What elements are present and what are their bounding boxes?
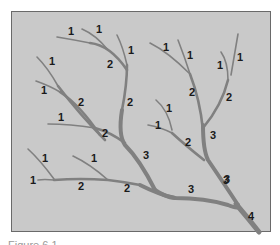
order-label: 4 <box>248 210 255 222</box>
order-label: 1 <box>166 102 172 114</box>
order-label: 1 <box>68 25 74 37</box>
order-label: 1 <box>49 55 55 67</box>
order-label: 2 <box>78 96 84 108</box>
order-label: 2 <box>185 136 191 148</box>
order-label: 1 <box>42 152 48 164</box>
figure-caption: Figure 6.1 <box>8 236 58 245</box>
order-label: 2 <box>127 96 133 108</box>
order-label: 2 <box>189 86 195 98</box>
order-label: 1 <box>237 51 243 63</box>
order-label: 1 <box>41 84 47 96</box>
order-label: 2 <box>124 182 130 194</box>
order-label: 2 <box>78 180 84 192</box>
order-label: 1 <box>155 119 161 131</box>
order-label: 3 <box>143 149 149 161</box>
order-label: 1 <box>187 49 193 61</box>
order-label: 3 <box>223 174 229 186</box>
order-label: 2 <box>226 91 232 103</box>
order-label: 2 <box>102 127 108 139</box>
order-label: 1 <box>128 44 134 56</box>
order-label: 1 <box>91 152 97 164</box>
order-label: 1 <box>30 174 36 186</box>
order-label: 3 <box>188 183 194 195</box>
order-label: 1 <box>163 41 169 53</box>
order-label: 1 <box>58 111 64 123</box>
order-label: 3 <box>210 129 216 141</box>
stream-order-tree: 1 1 1 2 1 1 2 2 1 2 1 1 1 1 2 2 1 1 2 3 … <box>0 0 280 245</box>
order-label: 2 <box>107 58 113 70</box>
order-label: 1 <box>96 23 102 35</box>
order-label: 1 <box>217 59 223 71</box>
